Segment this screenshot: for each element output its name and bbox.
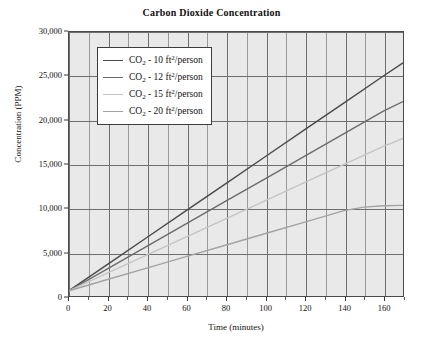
x-axis-tick-mark — [345, 297, 346, 301]
y-axis-tick-label: 0 — [0, 292, 62, 302]
x-axis-tick-label: 80 — [206, 303, 246, 313]
x-axis-tick-label: 20 — [88, 303, 128, 313]
x-axis-label: Time (minutes) — [68, 322, 404, 332]
chart-page: Carbon Dioxide Concentration 05,00010,00… — [0, 0, 423, 346]
chart-legend: CO2 - 10 ft2/personCO2 - 12 ft2/personCO… — [97, 47, 212, 125]
legend-line-swatch — [103, 60, 123, 61]
legend-item: CO2 - 15 ft2/person — [103, 86, 203, 103]
x-axis-tick-label: 40 — [127, 303, 167, 313]
x-axis-tick-mark — [266, 297, 267, 301]
x-axis-tick-mark — [364, 297, 365, 300]
x-axis-tick-mark — [404, 297, 405, 300]
x-axis-tick-mark — [68, 297, 69, 301]
legend-item-label: CO2 - 12 ft2/person — [129, 71, 203, 84]
legend-line-swatch — [103, 77, 123, 78]
y-axis-label: Concentration (PPM) — [13, 59, 23, 189]
legend-item-label: CO2 - 15 ft2/person — [129, 88, 203, 101]
y-axis-tick-mark — [64, 119, 68, 120]
x-axis-tick-mark — [285, 297, 286, 300]
chart-title: Carbon Dioxide Concentration — [0, 7, 423, 18]
y-axis-tick-label: 25,000 — [0, 70, 62, 80]
x-axis-tick-mark — [127, 297, 128, 300]
x-axis-tick-mark — [305, 297, 306, 301]
x-axis-tick-label: 0 — [48, 303, 88, 313]
series-line — [69, 205, 403, 290]
x-axis-tick-label: 120 — [285, 303, 325, 313]
x-axis-tick-label: 60 — [167, 303, 207, 313]
x-axis-tick-mark — [206, 297, 207, 300]
y-axis-tick-label: 30,000 — [0, 26, 62, 36]
x-axis-tick-mark — [246, 297, 247, 300]
y-axis-tick-mark — [64, 208, 68, 209]
y-axis-tick-label: 5,000 — [0, 248, 62, 258]
legend-item: CO2 - 12 ft2/person — [103, 69, 203, 86]
x-axis-tick-label: 160 — [364, 303, 404, 313]
x-axis-tick-mark — [88, 297, 89, 300]
x-axis-tick-mark — [147, 297, 148, 301]
series-line — [69, 138, 403, 290]
y-axis-tick-label: 20,000 — [0, 115, 62, 125]
x-axis-tick-mark — [384, 297, 385, 301]
y-axis-tick-mark — [64, 75, 68, 76]
y-axis-tick-label: 10,000 — [0, 203, 62, 213]
legend-item: CO2 - 20 ft2/person — [103, 103, 203, 120]
series-line — [69, 102, 403, 291]
x-axis-tick-mark — [325, 297, 326, 300]
legend-item-label: CO2 - 10 ft2/person — [129, 54, 203, 67]
legend-item: CO2 - 10 ft2/person — [103, 52, 203, 69]
y-axis-tick-mark — [64, 252, 68, 253]
legend-line-swatch — [103, 111, 123, 112]
legend-item-label: CO2 - 20 ft2/person — [129, 105, 203, 118]
x-axis-tick-label: 100 — [246, 303, 286, 313]
x-axis-tick-mark — [108, 297, 109, 301]
y-axis-tick-mark — [64, 31, 68, 32]
x-axis-tick-mark — [187, 297, 188, 301]
x-axis-tick-mark — [167, 297, 168, 300]
x-axis-tick-mark — [226, 297, 227, 301]
x-axis-tick-label: 140 — [325, 303, 365, 313]
y-axis-tick-label: 15,000 — [0, 159, 62, 169]
y-axis-tick-mark — [64, 164, 68, 165]
legend-line-swatch — [103, 94, 123, 95]
